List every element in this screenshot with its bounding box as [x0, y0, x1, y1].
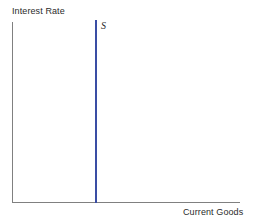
- supply-curve-label: S: [101, 20, 106, 32]
- y-axis-label: Interest Rate: [12, 6, 65, 17]
- y-axis-line: [12, 22, 13, 203]
- economics-supply-chart: Interest Rate Current Goods S: [0, 0, 253, 224]
- supply-curve-vertical-line: [95, 20, 97, 203]
- x-axis-line: [12, 202, 240, 203]
- x-axis-label: Current Goods: [183, 207, 243, 218]
